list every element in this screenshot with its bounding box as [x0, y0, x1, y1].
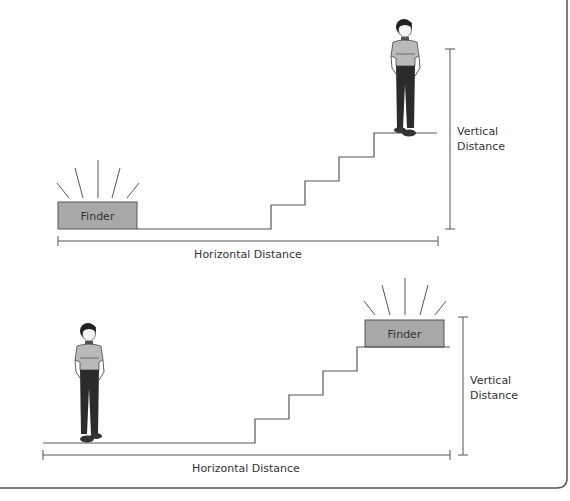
vertical-distance-label-line2: Distance: [470, 389, 518, 402]
bottom-panel: Finder Vertical Distance: [43, 278, 518, 475]
diagram-canvas: Finder Vertic: [0, 0, 570, 501]
person-figure: [391, 19, 420, 137]
finder-glow-rays-icon: [364, 278, 446, 315]
finder-label: Finder: [81, 210, 115, 223]
top-panel: Finder Vertic: [57, 19, 505, 261]
finder-label: Finder: [388, 328, 422, 341]
vertical-distance-bracket: [445, 49, 455, 229]
stairs: [43, 347, 450, 443]
vertical-distance-label-line1: Vertical: [457, 125, 498, 138]
stairs: [137, 133, 437, 229]
vertical-distance-bracket: [458, 317, 468, 455]
vertical-distance-label-line2: Distance: [457, 140, 505, 153]
horizontal-distance-label: Horizontal Distance: [194, 248, 302, 261]
vertical-distance-label-line1: Vertical: [470, 374, 511, 387]
horizontal-distance-bracket: [58, 236, 438, 246]
horizontal-distance-label: Horizontal Distance: [192, 462, 300, 475]
person-figure: [75, 323, 104, 443]
horizontal-distance-bracket: [43, 450, 450, 460]
finder-glow-rays-icon: [57, 160, 139, 198]
